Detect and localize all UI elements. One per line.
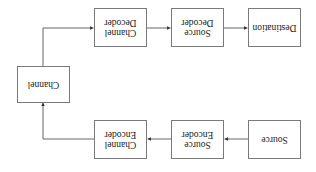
node-label-line1: Channel bbox=[104, 140, 136, 150]
arrowhead-icon bbox=[90, 26, 94, 29]
node-channel-decoder: Channel Decoder bbox=[95, 9, 147, 47]
node-label-line1: Source bbox=[184, 28, 210, 38]
node-source: Source bbox=[249, 121, 301, 159]
node-channel-encoder: Channel Encoder bbox=[95, 121, 147, 159]
node-label-line2: Encoder bbox=[104, 130, 136, 140]
arrowhead-icon bbox=[244, 26, 248, 29]
edge-channel-to-channel-decoder bbox=[43, 28, 91, 66]
communication-block-diagram: Channel Decoder Source Decoder Destinati… bbox=[0, 0, 316, 172]
node-label-line1: Source bbox=[184, 140, 210, 150]
node-label: Channel bbox=[27, 80, 59, 90]
node-label-line1: Channel bbox=[104, 28, 136, 38]
node-label-line2: Encoder bbox=[181, 130, 213, 140]
node-source-encoder: Source Encoder bbox=[172, 121, 224, 159]
arrowhead-icon bbox=[224, 137, 228, 140]
arrowhead-icon bbox=[167, 26, 171, 29]
arrowhead-icon bbox=[147, 137, 151, 140]
node-destination: Destination bbox=[249, 9, 301, 47]
node-source-decoder: Source Decoder bbox=[172, 9, 224, 47]
node-label: Destination bbox=[252, 23, 296, 33]
node-label: Source bbox=[261, 135, 287, 145]
node-channel: Channel bbox=[18, 67, 70, 103]
node-label-line2: Decoder bbox=[104, 18, 137, 28]
edge-channel-encoder-to-channel bbox=[43, 105, 95, 139]
node-label-line2: Decoder bbox=[181, 18, 214, 28]
